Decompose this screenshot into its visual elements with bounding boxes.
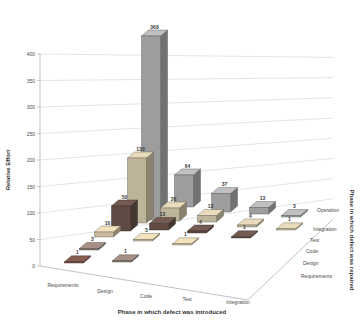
bar-data-label: 1: [184, 231, 187, 237]
bar-front-face: [65, 262, 84, 263]
depth-category-labels: RequirementsDesignCodeTestIntegrationOpe…: [301, 207, 339, 279]
x-category-code: Code: [140, 293, 152, 299]
bar-data-label: 130: [136, 146, 145, 152]
bar-data-label: 13: [208, 203, 214, 209]
bar-data-label: 13: [260, 195, 266, 201]
bar-design-design: 1: [113, 248, 139, 262]
value-tick-label: 200: [27, 157, 36, 163]
x-category-test: Test: [182, 296, 192, 302]
bar-data-label: 37: [222, 181, 228, 187]
x-category-design: Design: [97, 288, 113, 294]
value-tick-label: 150: [27, 184, 36, 190]
bar-data-label: 10: [105, 220, 111, 226]
bar-front-face: [80, 249, 99, 251]
bar-top-face: [173, 238, 199, 244]
bar-front-face: [173, 244, 192, 245]
bar-front-face: [134, 240, 153, 242]
bar-design-requirements: 3: [80, 236, 106, 250]
value-tick-label: 50: [29, 237, 35, 243]
gridline: [40, 138, 333, 160]
value-tick-label: 400: [27, 51, 36, 57]
bar-side-face: [161, 30, 168, 220]
depth-category-operation: Operation: [317, 207, 339, 213]
bar-front-face: [282, 216, 301, 218]
bar-data-label: 1: [288, 216, 291, 222]
bar-data-label: 1: [76, 249, 79, 255]
gridline: [40, 118, 333, 134]
bar-side-face: [194, 169, 201, 207]
bar-data-label: 1: [124, 248, 127, 254]
bar-data-label: 4: [249, 213, 252, 219]
depth-category-design: Design: [303, 260, 319, 266]
bar-data-label: 368: [150, 24, 159, 30]
bar-top-face: [113, 255, 139, 261]
value-tick-label: 350: [27, 78, 36, 84]
bar-data-label: 26: [171, 196, 177, 202]
x-category-labels: RequirementsDesignCodeTestIntegration: [47, 282, 250, 305]
bar-requirements-requirements: 1: [65, 249, 91, 263]
bar-operation-test: 13: [250, 195, 276, 214]
gridline: [40, 98, 333, 107]
bar-data-label: 3: [293, 203, 296, 209]
value-tick-label: 100: [27, 210, 36, 216]
bar-front-face: [150, 224, 169, 231]
value-axis: 050100150200250300350400: [27, 51, 40, 269]
value-tick-label: 300: [27, 104, 36, 110]
bar-operation-code: 37: [212, 181, 238, 212]
x-axis-title: Phase in which defect was introduced: [118, 309, 227, 315]
x-category-requirements: Requirements: [47, 282, 79, 288]
chart-figure: 050100150200250300350400 368643713313026…: [0, 0, 362, 330]
bar-front-face: [277, 229, 296, 230]
gridline: [40, 54, 333, 57]
bar-data-label: 4: [199, 219, 202, 225]
depth-category-integration: Integration: [313, 226, 337, 232]
depth-category-requirements: Requirements: [301, 273, 333, 279]
bar-front-face: [95, 232, 114, 237]
bar-data-label: 64: [185, 163, 191, 169]
bar-front-face: [113, 261, 132, 262]
bar-data-label: 50: [122, 194, 128, 200]
bar-front-face: [238, 225, 257, 227]
y-axis-title: Relative Effort: [5, 150, 11, 191]
bar-side-face: [147, 152, 154, 223]
bar-front-face: [188, 231, 207, 233]
bar-integration-test: 4: [238, 213, 264, 228]
depth-category-test: Test: [310, 237, 320, 243]
bars-group: 36864371331302613415013411031311: [65, 24, 308, 264]
bar-operation-design: 64: [175, 163, 201, 208]
bar-front-face: [212, 194, 231, 213]
bar-integration-integration: 1: [277, 216, 303, 230]
3d-bar-chart: 050100150200250300350400 368643713313026…: [0, 0, 362, 330]
bar-code-code: 1: [173, 231, 199, 245]
bar-data-label: 1: [243, 224, 246, 230]
bar-top-face: [277, 223, 303, 229]
bar-top-face: [65, 256, 91, 262]
value-tick-label: 250: [27, 131, 36, 137]
x-category-integration: Integration: [226, 299, 250, 305]
bar-front-face: [232, 237, 251, 238]
bar-data-label: 13: [160, 211, 166, 217]
gridline: [40, 78, 333, 81]
value-tick-label: 0: [32, 263, 35, 269]
bar-data-label: 3: [145, 227, 148, 233]
bar-data-label: 3: [91, 236, 94, 242]
z-axis-title: Phase in which defect was repaired: [349, 189, 355, 290]
bar-front-face: [250, 208, 269, 215]
bar-top-face: [232, 231, 258, 237]
depth-category-code: Code: [306, 248, 318, 254]
